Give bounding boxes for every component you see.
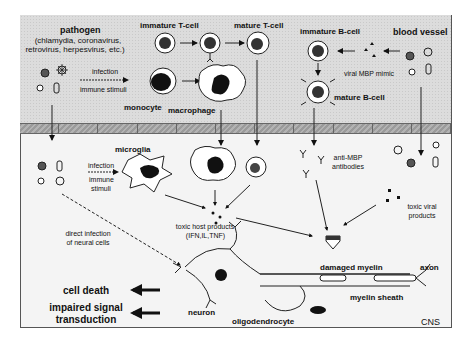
transduction-label: transduction <box>48 314 124 325</box>
toxic-viral-label: toxic viral <box>402 203 442 211</box>
pathogen-title: pathogen <box>60 26 101 36</box>
macrophage-label: macrophage <box>168 107 216 116</box>
cns-infection-label: infection <box>88 162 114 170</box>
myelin-sheath-label: myelin sheath <box>350 294 403 303</box>
oligodendrocyte-label: oligodendrocyte <box>232 318 294 327</box>
impaired-signal-label: impaired signal <box>48 302 124 313</box>
blood-vessel-label: blood vessel <box>393 28 448 38</box>
antibodies-label: antibodies <box>326 163 370 171</box>
neuron-label: neuron <box>188 309 215 318</box>
infection-label: infection <box>92 68 118 76</box>
damaged-myelin-label: damaged myelin <box>320 264 383 273</box>
direct-infection-label-2: of neural cells <box>58 239 118 247</box>
pathogen-examples-2: retrovirus, herpesvirus, etc.) <box>25 46 125 55</box>
microglia-label: microglia <box>115 146 151 155</box>
mature-bcell-label: mature B-cell <box>334 94 385 103</box>
toxic-host-list: (IFN,IL,TNF) <box>178 232 233 240</box>
anti-mbp-label: anti-MBP <box>328 154 368 162</box>
cns-immune-label: immune <box>89 176 114 184</box>
axon-label: axon <box>420 264 439 273</box>
toxic-viral-label-2: products <box>402 212 442 220</box>
cell-death-label: cell death <box>63 285 109 296</box>
immature-tcell-label: immature T-cell <box>140 22 199 31</box>
monocyte-label: monocyte <box>124 104 162 113</box>
viral-mimic-label: viral MBP mimic <box>344 70 394 78</box>
immune-stimuli-label: immune stimuli <box>80 86 127 94</box>
toxic-host-label: toxic host products <box>170 223 240 231</box>
mature-tcell-label: mature T-cell <box>234 22 283 31</box>
cns-label: CNS <box>421 318 440 328</box>
immature-bcell-label: immature B-cell <box>300 28 360 37</box>
direct-infection-label: direct infection <box>58 230 118 238</box>
cns-stimuli-label: stimuli <box>91 185 111 193</box>
pathogen-icons-blood <box>37 64 68 93</box>
